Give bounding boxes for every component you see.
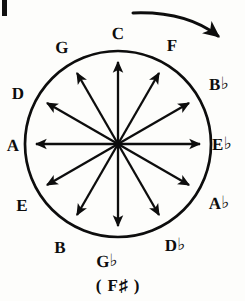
enharmonic-label: ( F♯ ) (96, 277, 141, 294)
flat-icon: ♭ (110, 251, 118, 270)
note-label-ab: A♭ (209, 194, 230, 212)
note-label-b: B (54, 239, 66, 256)
note-letter: B (209, 75, 221, 94)
clockwise-direction-arrow (133, 13, 218, 36)
note-label-db: D♭ (165, 236, 186, 254)
note-letter: E (212, 135, 224, 154)
flat-icon: ♭ (177, 235, 185, 254)
note-letter: G (96, 252, 109, 271)
note-letter: E (16, 196, 28, 215)
spoke-arrows-group (36, 62, 200, 226)
note-label-c: C (112, 25, 124, 42)
note-letter: D (165, 236, 177, 255)
note-label-gb: G♭ (96, 252, 118, 270)
note-letter: A (7, 136, 19, 155)
flat-icon: ♭ (221, 193, 229, 212)
note-letter: C (112, 24, 124, 43)
flat-icon: ♭ (221, 74, 229, 93)
note-label-eb: E♭ (212, 135, 232, 153)
circle-of-fifths-figure: CFB♭E♭A♭D♭G♭BEADG ( F♯ ) (0, 0, 245, 301)
note-label-e: E (16, 197, 28, 214)
note-label-d: D (12, 85, 24, 102)
note-letter: B (54, 238, 66, 257)
flat-icon: ♭ (224, 134, 232, 153)
note-label-bb: B♭ (209, 75, 229, 93)
note-letter: F (167, 36, 178, 55)
note-label-f: F (167, 37, 178, 54)
note-letter: A (209, 194, 221, 213)
note-letter: G (55, 38, 68, 57)
note-letter: D (12, 84, 24, 103)
note-label-a: A (7, 137, 19, 154)
diagram-canvas (0, 0, 245, 301)
note-label-g: G (55, 39, 68, 56)
